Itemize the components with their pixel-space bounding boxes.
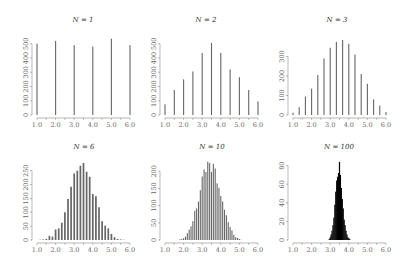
- histogram-bar: [367, 84, 368, 115]
- histogram-bar: [218, 188, 219, 240]
- panel-n1: N = 1 01002003004005001.02.03.04.05.06.0: [22, 16, 135, 129]
- x-tick-label: 4.0: [88, 246, 98, 254]
- panel-title: N = 3: [326, 16, 348, 24]
- histogram-bar: [257, 101, 258, 115]
- x-tick-label: 3.0: [325, 121, 335, 129]
- histogram-bar: [185, 237, 186, 240]
- y-tick-label: 0: [22, 113, 30, 117]
- x-tick-label: 6.0: [381, 121, 391, 129]
- histogram-bar: [336, 42, 337, 115]
- x-tick-label: 3.0: [197, 121, 207, 129]
- panel-title: N = 10: [198, 143, 225, 151]
- histogram-bar: [67, 199, 69, 240]
- histogram-bar: [349, 239, 350, 240]
- panel-n10: N = 10 0501001502001.02.03.04.05.06.0: [150, 143, 263, 254]
- histogram-bar: [385, 112, 386, 115]
- histogram-bar: [111, 234, 113, 240]
- histogram-bar: [181, 239, 182, 240]
- y-tick-label: 100: [22, 95, 30, 107]
- histogram-bar: [354, 55, 355, 115]
- histogram-bar: [317, 75, 318, 115]
- panel-n6: N = 6 0501001502002501.02.03.04.05.06.0: [22, 143, 135, 254]
- bar-series: [36, 39, 130, 115]
- y-tick-label: 250: [22, 164, 30, 176]
- x-tick-label: 6.0: [125, 246, 135, 254]
- y-tick-label: 50: [22, 222, 30, 230]
- x-tick-label: 3.0: [325, 246, 335, 254]
- y-axis: 0100200300400500: [22, 37, 32, 117]
- y-tick-label: 20: [278, 217, 286, 225]
- histogram-bar: [202, 53, 203, 115]
- x-tick-label: 6.0: [381, 246, 391, 254]
- histogram-bar: [235, 237, 236, 240]
- x-axis: 1.02.03.04.05.06.0: [288, 243, 391, 254]
- bar-series: [329, 162, 351, 240]
- y-tick-label: 300: [22, 66, 30, 78]
- y-axis: 050100150200250: [22, 164, 32, 242]
- histogram-bar: [190, 226, 191, 240]
- y-tick-label: 200: [150, 80, 158, 92]
- x-tick-label: 3.0: [69, 246, 79, 254]
- y-tick-label: 200: [22, 80, 30, 92]
- histogram-bar: [55, 229, 57, 240]
- y-tick-label: 60: [278, 180, 286, 188]
- panel-title: N = 100: [323, 143, 354, 151]
- histogram-bar: [233, 235, 234, 240]
- histogram-bar: [98, 207, 100, 240]
- y-tick-label: 100: [150, 199, 158, 211]
- bar-series: [292, 40, 386, 115]
- histogram-bar: [220, 196, 221, 240]
- y-axis: 0100200300: [278, 50, 288, 117]
- histogram-bar: [89, 177, 91, 240]
- histogram-bar: [226, 215, 227, 240]
- histogram-bar: [73, 173, 75, 240]
- histogram-bar: [92, 47, 93, 115]
- histogram-bar: [187, 233, 188, 240]
- x-tick-label: 2.0: [306, 246, 316, 254]
- x-tick-label: 1.0: [160, 121, 170, 129]
- histogram-bar: [74, 45, 75, 115]
- histogram-bar: [231, 230, 232, 240]
- x-axis: 1.02.03.04.05.06.0: [32, 243, 135, 254]
- x-tick-label: 5.0: [362, 246, 372, 254]
- panel-title: N = 6: [73, 143, 95, 151]
- histogram-bar: [196, 208, 197, 240]
- y-tick-label: 0: [150, 113, 158, 117]
- histogram-bar: [373, 99, 374, 115]
- x-axis: 1.02.03.04.05.06.0: [288, 118, 391, 129]
- histogram-bar: [45, 239, 47, 240]
- y-tick-label: 500: [22, 37, 30, 49]
- histogram-bar: [224, 210, 225, 240]
- histogram-bar: [189, 230, 190, 240]
- histogram-bar: [80, 166, 82, 240]
- y-tick-label: 200: [22, 178, 30, 190]
- y-tick-label: 500: [150, 37, 158, 49]
- histogram-bar: [183, 238, 184, 240]
- histogram-bar: [217, 183, 218, 240]
- bar-series: [179, 162, 241, 240]
- histogram-bar: [342, 40, 343, 115]
- y-tick-label: 40: [278, 199, 286, 207]
- histogram-bar: [230, 69, 231, 115]
- x-tick-label: 4.0: [216, 121, 226, 129]
- histogram-bar: [207, 162, 208, 240]
- y-tick-label: 0: [22, 238, 30, 242]
- histogram-bar: [95, 196, 97, 240]
- histogram-bar: [101, 221, 103, 240]
- panel-n2: N = 2 01002003004005001.02.03.04.05.06.0: [150, 16, 263, 129]
- x-tick-label: 5.0: [106, 246, 116, 254]
- histogram-bar: [198, 202, 199, 240]
- histogram-bar: [330, 48, 331, 115]
- histogram-bar: [305, 96, 306, 115]
- histogram-bar: [211, 172, 212, 240]
- y-tick-label: 200: [150, 165, 158, 177]
- histogram-bar: [205, 172, 206, 240]
- x-tick-label: 6.0: [253, 121, 263, 129]
- histogram-bar: [58, 228, 60, 240]
- x-axis: 1.02.03.04.05.06.0: [160, 243, 263, 254]
- x-tick-label: 1.0: [288, 246, 298, 254]
- x-tick-label: 5.0: [362, 121, 372, 129]
- x-tick-label: 2.0: [306, 121, 316, 129]
- histogram-bar: [202, 176, 203, 240]
- y-tick-label: 400: [22, 52, 30, 64]
